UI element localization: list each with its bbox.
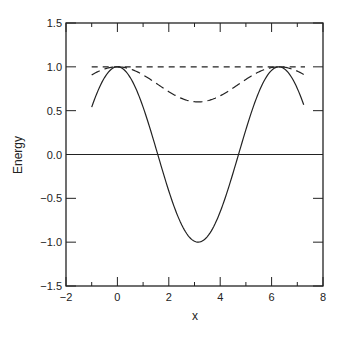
x-tick-label: −2: [60, 291, 73, 303]
x-axis-label: x: [192, 309, 198, 323]
long-dashed-curve-line: [92, 67, 304, 102]
x-tick-label: 2: [166, 291, 172, 303]
x-tick-label: 0: [114, 291, 120, 303]
x-tick-label: 8: [320, 291, 326, 303]
data-series: [66, 67, 323, 242]
tick-labels: −202468−1.5−1.0−0.50.00.51.01.5: [40, 17, 326, 303]
y-axis-label: Energy: [11, 136, 25, 174]
y-tick-label: 0.5: [47, 105, 62, 117]
y-tick-label: −0.5: [40, 192, 62, 204]
x-tick-label: 6: [269, 291, 275, 303]
y-tick-label: 1.5: [47, 17, 62, 29]
y-tick-label: 0.0: [47, 149, 62, 161]
y-tick-label: 1.0: [47, 61, 62, 73]
y-tick-label: −1.5: [40, 280, 62, 292]
x-tick-label: 4: [217, 291, 223, 303]
y-tick-label: −1.0: [40, 236, 62, 248]
energy-chart: −202468−1.5−1.0−0.50.00.51.01.5 x Energy: [0, 0, 351, 337]
